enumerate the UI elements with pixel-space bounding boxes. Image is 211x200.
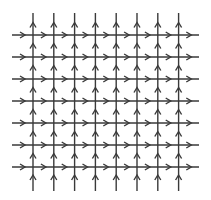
- lattice-diagram: [0, 0, 211, 200]
